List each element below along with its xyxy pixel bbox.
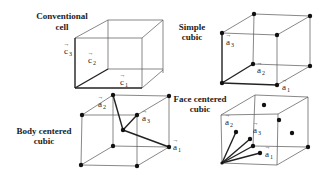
label-c1: c 1 → [120,72,129,88]
svg-text:a: a [142,113,146,123]
svg-text:3: 3 [147,118,150,124]
edge-vector [222,146,253,163]
svg-text:→: → [257,60,263,66]
bcc-title-line2: cubic [34,136,55,146]
svg-text:2: 2 [93,60,96,66]
label-a2: a 2 → [257,60,266,76]
vector-a1 [222,83,277,85]
svg-text:→: → [142,108,148,114]
svg-text:→: → [226,32,232,38]
svg-text:1: 1 [287,87,290,93]
simple-cubic-cube [220,12,312,87]
label-a1: a 1 → [282,77,291,93]
svg-text:a: a [225,117,229,127]
svg-text:→: → [120,72,126,78]
vector-a2 [113,95,123,130]
simple-cubic-panel: Simple cubic [179,12,312,93]
svg-text:→: → [88,50,94,56]
label-a3: a 3 → [142,108,151,124]
svg-text:1: 1 [125,82,128,88]
vector-a2 [222,132,236,163]
conventional-cell-panel: Conventional cell c 3 → c 2 [36,11,163,88]
simple-cubic-title-line2: cubic [182,32,203,42]
svg-text:a: a [98,99,102,109]
bcc-title-line1: Body centered [16,126,71,136]
label-c2: c 2 → [88,50,97,66]
svg-text:c: c [120,77,124,87]
label-c3: c 3 → [64,41,73,57]
bcc-cube [79,93,171,168]
crystal-lattice-diagram: Conventional cell c 3 → c 2 [0,0,329,179]
vector-a1 [123,130,169,147]
vector-c2 [75,69,108,88]
svg-text:2: 2 [230,122,233,128]
fcc-title-line1: Face centered [173,94,226,104]
svg-text:→: → [265,144,271,150]
svg-text:→: → [173,137,179,143]
svg-text:a: a [173,142,177,152]
conventional-title-line2: cell [56,22,69,32]
svg-text:a: a [265,149,269,159]
svg-text:a: a [257,65,261,75]
svg-text:a: a [226,37,230,47]
label-a3: a 3 → [226,32,235,48]
label-a2: a 2 → [98,94,107,110]
label-a3: a 3 → [253,120,262,136]
svg-text:→: → [225,112,231,118]
svg-text:→: → [64,41,70,47]
svg-text:1: 1 [270,154,273,160]
svg-text:3: 3 [258,130,261,136]
svg-text:3: 3 [231,42,234,48]
svg-text:→: → [253,120,259,126]
body-centered-cubic-panel: Body centered cubic [16,93,181,168]
svg-text:a: a [282,82,286,92]
vector-a3 [123,115,137,130]
svg-text:c: c [88,55,92,65]
fcc-title-line2: cubic [190,104,211,114]
svg-text:→: → [98,94,104,100]
vector-a2 [222,64,253,83]
svg-text:a: a [253,125,257,135]
face-centered-cubic-panel: Face centered cubic [173,94,310,165]
svg-text:2: 2 [103,104,106,110]
conventional-title-line1: Conventional [36,11,88,21]
lattice-points [79,93,171,168]
label-a1: a 1 → [173,137,182,153]
simple-cubic-title-line1: Simple [179,22,206,32]
svg-text:2: 2 [262,70,265,76]
svg-text:3: 3 [69,51,72,57]
svg-text:c: c [64,46,68,56]
label-a2: a 2 → [225,112,234,128]
svg-text:1: 1 [178,147,181,153]
svg-text:→: → [282,77,288,83]
